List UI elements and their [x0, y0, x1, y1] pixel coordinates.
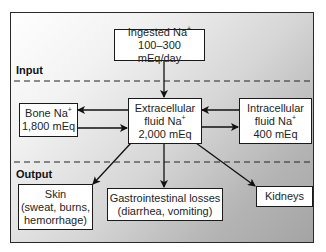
node-text: hemorrhage) — [24, 214, 87, 227]
node-text: Ingested Na — [128, 26, 187, 38]
node-intracellular-fluid: Intracellular fluid Na+ 400 mEq — [239, 98, 312, 144]
node-text: 2,000 mEq — [138, 128, 191, 141]
node-text: (diarrhea, vomiting) — [118, 205, 213, 218]
node-text: Bone Na — [25, 107, 68, 119]
node-bone-sodium: Bone Na+ 1,800 mEq — [19, 103, 78, 137]
node-text: Extracellular — [135, 102, 196, 115]
node-text: 100–300 mEq/day — [115, 39, 204, 65]
node-text: Skin — [45, 188, 66, 201]
node-gastrointestinal-losses: Gastrointestinal losses (diarrhea, vomit… — [107, 188, 223, 221]
superscript: + — [187, 25, 191, 32]
node-line: fluid Na+ — [255, 115, 296, 128]
node-text: fluid Na — [255, 115, 292, 127]
superscript: + — [292, 114, 296, 121]
node-text: Gastrointestinal losses — [110, 192, 221, 205]
node-ingested-sodium: Ingested Na+ 100–300 mEq/day — [114, 29, 205, 61]
node-text: (sweat, burns, — [21, 201, 90, 214]
node-kidneys: Kidneys — [256, 186, 313, 207]
node-skin: Skin (sweat, burns, hemorrhage) — [18, 184, 93, 230]
node-text: 400 mEq — [253, 128, 297, 141]
superscript: + — [182, 114, 186, 121]
node-extracellular-fluid: Extracellular fluid Na+ 2,000 mEq — [128, 98, 202, 144]
node-line: Bone Na+ — [25, 107, 72, 120]
node-text: Kidneys — [265, 190, 304, 203]
arrow-ecf-to-skin — [93, 143, 131, 184]
input-section-label: Input — [16, 64, 43, 76]
output-section-label: Output — [16, 168, 52, 180]
node-line: fluid Na+ — [144, 115, 185, 128]
node-text: 1,800 mEq — [22, 120, 75, 133]
arrow-ecf-to-kidneys — [196, 143, 255, 186]
node-line: Ingested Na+ — [128, 26, 191, 39]
node-text: fluid Na — [144, 115, 181, 127]
superscript: + — [68, 106, 72, 113]
